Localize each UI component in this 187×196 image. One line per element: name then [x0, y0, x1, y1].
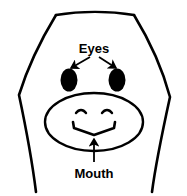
face-diagram: Eyes Mouth — [0, 0, 187, 196]
eyes-arrow-right — [99, 57, 116, 68]
eyes-arrow-left — [71, 57, 90, 68]
left-eye — [61, 69, 78, 92]
right-eye — [109, 69, 126, 92]
head-right-edge — [134, 15, 170, 192]
eyes-label: Eyes — [79, 41, 109, 56]
head-outline — [19, 12, 170, 192]
right-nostril — [102, 110, 112, 113]
mouth-line — [73, 122, 115, 135]
face-diagram-canvas: Eyes Mouth — [0, 0, 187, 196]
head-top-edge — [56, 12, 134, 15]
head-left-edge — [19, 15, 56, 192]
left-nostril — [76, 110, 86, 113]
mouth-label: Mouth — [75, 166, 114, 181]
